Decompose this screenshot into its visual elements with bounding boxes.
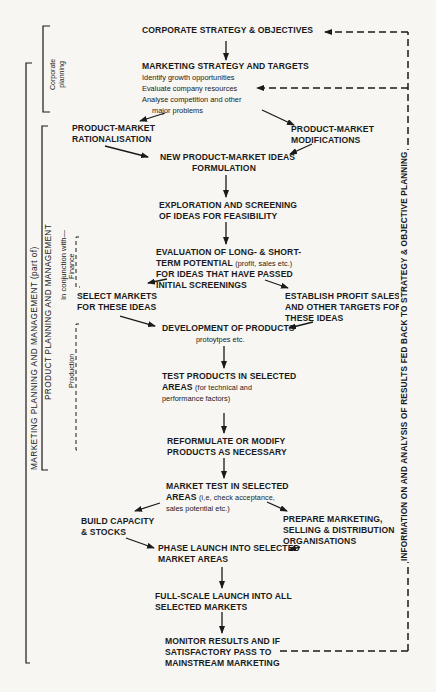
node-line: RATIONALISATION [72,134,151,146]
label-line: Corporate [48,59,57,90]
node-line: PRODUCTS AS NECESSARY [167,447,287,459]
node-line: MARKET AREAS [158,554,228,566]
label-finance: Finance [66,253,78,279]
node-line-note: (for technical and [195,383,252,392]
node-line: MARKET TEST IN SELECTED [166,481,289,493]
marketing-strategy-line: Identify growth opportunities [142,72,234,84]
node-line-note: (i,e, check acceptance, [199,493,275,502]
marketing-strategy-title: MARKETING STRATEGY AND TARGETS [142,61,309,73]
node-line: AREAS (i,e, check acceptance, [166,492,275,504]
marketing-strategy-line: Evaluate company resources [142,83,237,95]
node-line: NEW PRODUCT-MARKET IDEAS [160,152,295,164]
label-product-planning: PRODUCT PLANNING AND MANAGEMENT [43,224,55,400]
label-corporate-planning: Corporate planning [48,59,66,90]
node-line: PREPARE MARKETING, [283,514,383,526]
node-line-note: protoytpes etc. [196,334,244,346]
node-line: SELLING & DISTRIBUTION [283,525,395,537]
marketing-strategy-line: Analyse competition and other [142,94,241,106]
node-line: SELECTED MARKETS [155,602,247,614]
node-line: & STOCKS [81,527,126,539]
node-corporate-strategy: CORPORATE STRATEGY & OBJECTIVES [142,25,313,37]
node-line-note: sales potential etc.) [166,503,230,515]
node-line-bold: AREAS [166,492,197,502]
marketing-strategy-line: major problems [152,105,203,117]
node-line: PRODUCT-MARKET [291,124,374,136]
node-line: PHASE LAUNCH INTO SELECTED [158,543,300,555]
node-line-bold: AREAS [162,382,193,392]
node-line: MODIFICATIONS [291,135,360,147]
node-line: FULL-SCALE LAUNCH INTO ALL [155,591,292,603]
node-line: FORMULATION [192,163,256,175]
node-line-note: (profit, sales etc.) [235,259,292,268]
node-line: FOR THESE IDEAS [77,302,156,314]
node-line: TERM POTENTIAL (profit, sales etc.) [156,258,292,270]
label-feedback: INFORMATION ON AND ANALYSIS OF RESULTS F… [399,150,411,562]
node-line: MONITOR RESULTS AND IF [165,636,280,648]
node-line: SATISFACTORY PASS TO [165,647,271,659]
node-line: INITIAL SCREENINGS [156,280,247,292]
node-line-bold: TERM POTENTIAL [156,258,233,268]
node-line: OF IDEAS FOR FEASIBILITY [159,211,277,223]
node-line: MAINSTREAM MARKETING [165,658,280,670]
node-line: ESTABLISH PROFIT SALES [285,291,400,303]
node-line: AREAS (for technical and [162,382,252,394]
node-line-note: performance factors) [162,393,230,405]
node-line: FOR IDEAS THAT HAVE PASSED [156,269,293,281]
node-line: SELECT MARKETS [77,291,157,303]
node-line: EVALUATION OF LONG- & SHORT- [156,247,301,259]
node-line: EXPLORATION AND SCREENING [159,200,297,212]
node-line: TEST PRODUCTS IN SELECTED [162,371,296,383]
label-line: planning [57,59,66,90]
node-line: PRODUCT-MARKET [72,123,155,135]
node-line: REFORMULATE OR MODIFY [167,436,285,448]
node-line: DEVELOPMENT OF PRODUCTS [162,323,295,335]
label-production: Production [66,354,78,388]
node-line: BUILD CAPACITY [81,516,154,528]
node-line: AND OTHER TARGETS FOR [285,302,402,314]
label-marketing-planning: MARKETING PLANNING AND MANAGEMENT (part … [29,246,41,470]
